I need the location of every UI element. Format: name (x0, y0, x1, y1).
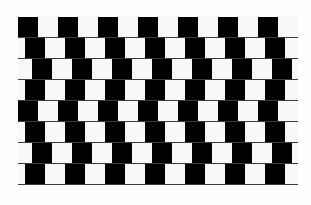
dark-tile (25, 38, 45, 58)
dark-tile (32, 59, 52, 79)
dark-tile (98, 101, 118, 121)
dark-tile (258, 101, 278, 121)
dark-tile (265, 80, 285, 100)
dark-tile (272, 59, 292, 79)
dark-tile (185, 38, 205, 58)
dark-tile (225, 38, 245, 58)
wall-row (18, 80, 298, 100)
dark-tile (192, 143, 212, 163)
dark-tile (105, 80, 125, 100)
dark-tile (65, 80, 85, 100)
dark-tile (65, 122, 85, 142)
dark-tile (105, 38, 125, 58)
dark-tile (145, 80, 165, 100)
dark-tile (145, 38, 165, 58)
dark-tile (265, 38, 285, 58)
dark-tile (152, 59, 172, 79)
dark-tile (72, 59, 92, 79)
dark-tile (138, 101, 158, 121)
dark-tile (192, 59, 212, 79)
dark-tile (185, 80, 205, 100)
dark-tile (25, 164, 45, 184)
dark-tile (105, 164, 125, 184)
cafe-wall-pattern (18, 17, 298, 190)
wall-row (18, 101, 298, 121)
dark-tile (112, 59, 132, 79)
dark-tile (25, 122, 45, 142)
dark-tile (258, 17, 278, 37)
dark-tile (145, 164, 165, 184)
dark-tile (25, 80, 45, 100)
dark-tile (58, 101, 78, 121)
dark-tile (185, 164, 205, 184)
dark-tile (185, 122, 205, 142)
dark-tile (18, 17, 38, 37)
dark-tile (178, 17, 198, 37)
dark-tile (65, 38, 85, 58)
dark-tile (32, 143, 52, 163)
dark-tile (232, 143, 252, 163)
dark-tile (265, 164, 285, 184)
wall-row (18, 143, 298, 163)
dark-tile (105, 122, 125, 142)
dark-tile (58, 17, 78, 37)
wall-row (18, 164, 298, 184)
dark-tile (225, 80, 245, 100)
dark-tile (218, 101, 238, 121)
dark-tile (218, 17, 238, 37)
dark-tile (72, 143, 92, 163)
dark-tile (112, 143, 132, 163)
mortar-line (18, 184, 298, 185)
dark-tile (18, 101, 38, 121)
wall-row (18, 122, 298, 142)
wall-row (18, 38, 298, 58)
dark-tile (65, 164, 85, 184)
wall-row (18, 17, 298, 37)
dark-tile (272, 143, 292, 163)
dark-tile (98, 17, 118, 37)
dark-tile (145, 122, 165, 142)
dark-tile (225, 122, 245, 142)
dark-tile (225, 164, 245, 184)
dark-tile (232, 59, 252, 79)
dark-tile (178, 101, 198, 121)
dark-tile (138, 17, 158, 37)
dark-tile (152, 143, 172, 163)
dark-tile (265, 122, 285, 142)
wall-row (18, 59, 298, 79)
